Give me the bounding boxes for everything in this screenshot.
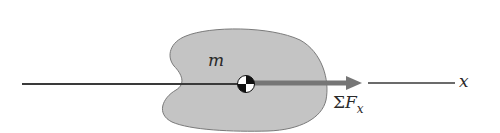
force-subscript: x xyxy=(357,102,364,116)
force-arrow-head xyxy=(346,76,362,90)
free-body-diagram: m ΣFx x xyxy=(0,0,500,133)
mass-label: m xyxy=(208,50,224,70)
center-of-mass-icon xyxy=(238,76,255,93)
axis-label: x xyxy=(459,71,469,91)
force-label: ΣFx xyxy=(333,92,364,116)
sigma-symbol: Σ xyxy=(333,92,345,112)
